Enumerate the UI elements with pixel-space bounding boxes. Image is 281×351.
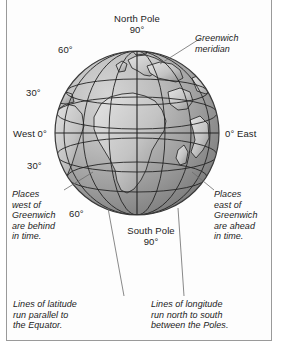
label-latitude-30-south: 30°: [27, 160, 42, 171]
label-west-zero: West 0°: [13, 128, 47, 139]
annotation-lines-of-longitude: Lines of longitude run north to south be…: [151, 299, 275, 331]
leader-lines-of-latitude: [108, 208, 124, 296]
label-east-zero: 0° East: [225, 128, 256, 139]
label-south-pole: South Pole 90°: [110, 225, 192, 247]
annotation-lines-of-latitude: Lines of latitude run parallel to the Eq…: [13, 299, 129, 331]
label-latitude-30-north: 30°: [26, 87, 41, 98]
annotation-greenwich-meridian: Greenwich meridian: [195, 33, 275, 54]
annotation-places-west: Places west of Greenwich are behind in t…: [12, 189, 76, 242]
figure-stage: North Pole 90° 60° 30° West 0° 30° 60° 0…: [0, 0, 281, 351]
annotation-places-east: Places east of Greenwich are ahead in ti…: [214, 189, 278, 242]
leader-lines-of-longitude: [178, 208, 184, 296]
label-latitude-60-north: 60°: [58, 44, 73, 55]
globe-sphere: [52, 45, 219, 215]
label-north-pole: North Pole 90°: [96, 13, 178, 35]
figure-root: North Pole 90° 60° 30° West 0° 30° 60° 0…: [0, 0, 281, 351]
